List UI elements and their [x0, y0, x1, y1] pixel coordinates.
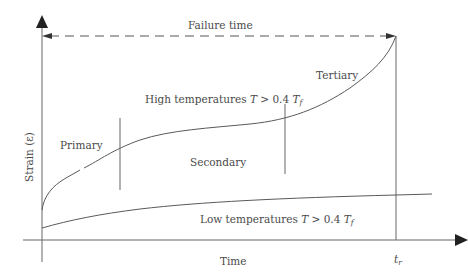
rupture-time-label: tr: [394, 254, 402, 267]
failure-left-arrow-icon: [42, 33, 52, 39]
primary-label: Primary: [60, 140, 103, 151]
high-temp-sub: f: [299, 98, 302, 107]
secondary-label: Secondary: [190, 157, 246, 168]
y-axis-label: Strain (ε): [24, 132, 35, 182]
high-temperature-curve: [42, 36, 396, 210]
high-temperature-label: High temperatures T > 0.4 Tf: [145, 94, 302, 107]
low-temperature-label: Low temperatures T > 0.4 Tf: [200, 214, 354, 227]
rupture-time-subscript: r: [398, 258, 402, 267]
high-temp-op: > 0.4: [257, 93, 293, 105]
tertiary-label: Tertiary: [316, 70, 358, 81]
low-temp-sub: f: [351, 218, 354, 227]
failure-right-arrow-icon: [386, 33, 396, 39]
low-temp-prefix: Low temperatures: [200, 213, 301, 225]
y-axis-arrow-icon: [36, 15, 48, 28]
failure-time-label: Failure time: [188, 20, 253, 31]
high-temp-prefix: High temperatures: [145, 93, 250, 105]
low-temp-var2: T: [344, 213, 351, 225]
low-temp-op: > 0.4: [308, 213, 344, 225]
x-axis-label: Time: [220, 256, 247, 267]
x-axis-arrow-icon: [455, 234, 468, 246]
high-temp-var: T: [250, 93, 257, 105]
creep-curve-diagram: Failure time Tertiary High temperatures …: [0, 0, 468, 277]
